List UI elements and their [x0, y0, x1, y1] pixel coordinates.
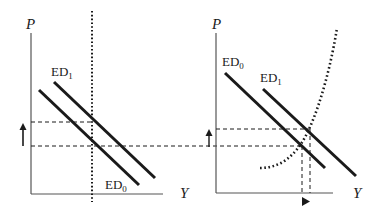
left-ed0-curve	[39, 90, 139, 185]
right-output-right-arrow-icon	[302, 197, 310, 206]
right-ed0-curve	[225, 73, 325, 168]
left-x-axis-label: Y	[180, 185, 190, 201]
diagram: P Y ED1 ED0 P Y	[0, 0, 379, 212]
left-ed0-label: ED0	[105, 177, 127, 194]
left-y-axis-label: P	[25, 16, 35, 32]
left-price-up-arrow-icon	[20, 123, 27, 146]
right-x-axis-label: Y	[353, 185, 363, 201]
right-price-up-arrow-icon	[206, 129, 213, 147]
left-panel: P Y ED1 ED0	[20, 11, 301, 202]
left-ed1-label: ED1	[51, 64, 73, 81]
right-ed0-label: ED0	[222, 54, 244, 71]
right-ed1-curve	[263, 89, 356, 176]
left-ed1-curve	[54, 82, 155, 178]
right-panel: P Y ED0 ED1	[206, 16, 364, 206]
right-ed1-label: ED1	[260, 70, 282, 87]
right-y-axis-label: P	[211, 16, 221, 32]
